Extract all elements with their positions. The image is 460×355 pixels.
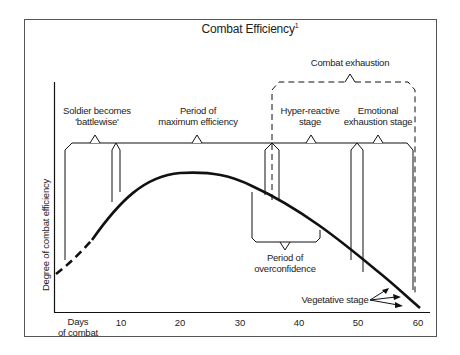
x-tick-30: 30 xyxy=(235,317,246,328)
diagram-canvas xyxy=(0,0,460,355)
label-vegetative: Vegetative stage xyxy=(301,294,368,305)
curve-dashed xyxy=(56,240,92,274)
x-axis-label: Days of combat xyxy=(58,316,98,338)
y-axis-label: Degree of combat efficiency xyxy=(40,179,51,291)
x-tick-60: 60 xyxy=(413,317,424,328)
x-tick-10: 10 xyxy=(116,317,127,328)
stage-bracket xyxy=(65,135,413,290)
label-hyper-reactive: Hyper-reactive stage xyxy=(281,105,340,127)
x-tick-20: 20 xyxy=(175,317,186,328)
label-max-efficiency: Period of maximum efficiency xyxy=(158,105,238,127)
label-battlewise: Soldier becomes 'battlewise' xyxy=(63,105,131,127)
label-overconfidence: Period of overconfidence xyxy=(254,252,316,274)
label-emotional-exhaustion: Emotional exhaustion stage xyxy=(344,105,413,127)
overconfidence-bracket xyxy=(252,192,320,250)
x-tick-40: 40 xyxy=(294,317,305,328)
label-combat-exhaustion: Combat exhaustion xyxy=(311,57,389,68)
x-tick-50: 50 xyxy=(353,317,364,328)
curve-solid xyxy=(92,173,420,308)
